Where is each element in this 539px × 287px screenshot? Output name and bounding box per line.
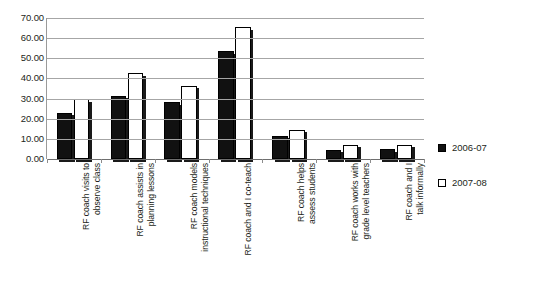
x-axis-category-label-line: planning lessons	[146, 163, 157, 226]
x-axis-category-label-line: RF coach assists in	[135, 163, 146, 237]
x-axis-category-label-line: RF coach models	[189, 163, 200, 229]
x-axis-category-label-line: talk informally	[415, 163, 426, 215]
bar-series-2006-07	[380, 149, 396, 159]
x-axis-category-label-line: assess students	[307, 163, 318, 224]
legend-label: 2006-07	[452, 142, 487, 153]
x-axis-category-label: RF coach and I co-teach	[243, 163, 273, 281]
x-axis-category-label: RF coach visits toobserve class	[81, 163, 111, 281]
axis-baseline	[47, 159, 424, 160]
bar-series-2006-07	[111, 96, 127, 159]
bar-series-2007-08	[181, 86, 197, 159]
bar-series-2006-07	[326, 150, 342, 159]
y-tick-label: 50.00	[0, 53, 44, 63]
x-axis-category-label-line: RF coach works with	[350, 163, 361, 241]
y-axis: 70.0060.0050.0040.0030.0020.0010.000.00	[0, 13, 44, 165]
bar-chart: 70.0060.0050.0040.0030.0020.0010.000.00 …	[0, 0, 539, 287]
bar-face	[128, 73, 144, 159]
y-tick-label: 20.00	[0, 114, 44, 124]
plot-area	[46, 18, 424, 159]
bar-face	[164, 102, 180, 159]
y-tick-label: 40.00	[0, 73, 44, 83]
bar-series-2007-08	[397, 145, 413, 159]
x-axis-category-label-line: instructional techniques	[200, 163, 211, 252]
y-tick-label: 10.00	[0, 134, 44, 144]
y-tick-label: 70.00	[0, 13, 44, 23]
x-axis-category-label: RF coach helpsassess students	[296, 163, 326, 281]
legend-swatch-filled-square-icon	[438, 144, 446, 152]
x-axis-category-label: RF coach assists inplanning lessons	[135, 163, 165, 281]
x-axis-category-label: RF coach and Italk informally	[404, 163, 434, 281]
y-tick-label: 60.00	[0, 33, 44, 43]
bar-group	[380, 18, 413, 159]
legend-swatch-hollow-square-icon	[438, 179, 446, 187]
bar-series-2007-08	[74, 99, 90, 159]
bar-series-2007-08	[128, 73, 144, 159]
x-axis-labels: RF coach visits toobserve classRF coach …	[46, 163, 423, 287]
y-tick-label: 30.00	[0, 94, 44, 104]
chart-legend: 2006-07 2007-08	[438, 142, 534, 212]
bar-group	[272, 18, 305, 159]
bar-series-2006-07	[218, 51, 234, 159]
bars-layer	[47, 18, 424, 159]
bar-group	[57, 18, 90, 159]
x-axis-category-label-line: RF coach visits to	[81, 163, 92, 230]
x-axis-category-label-line: observe class	[92, 163, 103, 215]
legend-label: 2007-08	[452, 177, 487, 188]
x-axis-category-label: RF coach works withgrade level teachers	[350, 163, 380, 281]
gridline	[47, 78, 424, 79]
bar-face	[397, 145, 413, 159]
bar-face	[289, 130, 305, 159]
legend-item-2007-08: 2007-08	[438, 177, 534, 188]
bar-group	[326, 18, 359, 159]
bar-face	[111, 96, 127, 159]
bar-face	[326, 150, 342, 159]
x-axis-category-label-line: RF coach and I co-teach	[243, 163, 254, 255]
gridline	[47, 119, 424, 120]
x-axis-category-label-line: RF coach helps	[296, 163, 307, 222]
gridline	[47, 139, 424, 140]
bar-series-2007-08	[289, 130, 305, 159]
x-axis-category-label: RF coach modelsinstructional techniques	[189, 163, 219, 281]
gridline	[47, 99, 424, 100]
bar-group	[111, 18, 144, 159]
bar-face	[181, 86, 197, 159]
bar-face	[218, 51, 234, 159]
bar-series-2006-07	[164, 102, 180, 159]
bar-group	[164, 18, 197, 159]
x-axis-category-label-line: RF coach and I	[404, 163, 415, 221]
y-tick-label: 0.00	[0, 154, 44, 164]
legend-item-2006-07: 2006-07	[438, 142, 534, 153]
gridline	[47, 18, 424, 19]
bar-face	[74, 99, 90, 159]
x-axis-category-label-line: grade level teachers	[361, 163, 372, 239]
bar-face	[380, 149, 396, 159]
bar-group	[218, 18, 251, 159]
bar-face	[343, 145, 359, 159]
gridline	[47, 38, 424, 39]
bar-series-2007-08	[343, 145, 359, 159]
gridline	[47, 58, 424, 59]
